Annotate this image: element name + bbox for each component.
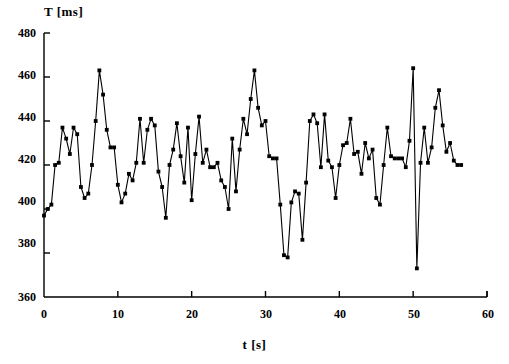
data-point (205, 148, 209, 152)
data-point (341, 143, 345, 147)
y-axis-ticks (44, 77, 50, 253)
data-point (433, 106, 437, 110)
data-point (145, 128, 149, 132)
data-point (404, 165, 408, 169)
x-axis-ticks (118, 291, 487, 297)
data-point (116, 183, 120, 187)
data-point (223, 185, 227, 189)
data-point (430, 146, 434, 150)
data-point (282, 253, 286, 257)
data-point (349, 117, 353, 121)
data-point (164, 216, 168, 220)
data-point (301, 238, 305, 242)
data-point (385, 126, 389, 130)
data-point (304, 181, 308, 185)
data-point (109, 146, 113, 150)
data-point (260, 124, 264, 128)
data-point (127, 172, 131, 176)
data-point (186, 126, 190, 130)
data-point (444, 150, 448, 154)
data-point (75, 132, 79, 136)
data-point (319, 165, 323, 169)
data-point (330, 165, 334, 169)
data-point (271, 157, 275, 161)
data-point (197, 115, 201, 119)
data-point (68, 152, 72, 156)
data-point (230, 137, 234, 141)
data-point (356, 150, 360, 154)
data-point (182, 181, 186, 185)
data-point (422, 126, 426, 130)
data-point (105, 128, 109, 132)
data-point (86, 192, 90, 196)
data-point (415, 267, 419, 271)
data-point (94, 119, 98, 123)
data-point (157, 170, 161, 174)
data-point (238, 148, 242, 152)
data-point (216, 161, 220, 165)
data-point (142, 161, 146, 165)
data-point (153, 124, 157, 128)
data-point (49, 203, 53, 207)
data-point (227, 207, 231, 211)
data-point (400, 157, 404, 161)
data-point (57, 161, 61, 165)
data-point (219, 179, 223, 183)
data-point (275, 157, 279, 161)
data-point (419, 161, 423, 165)
data-point (289, 201, 293, 205)
data-point (308, 119, 312, 123)
data-point (411, 66, 415, 70)
data-point (264, 119, 268, 123)
data-point (293, 190, 297, 194)
data-point (79, 185, 83, 189)
data-point (371, 148, 375, 152)
data-point (378, 203, 382, 207)
data-point (168, 163, 172, 167)
data-point (241, 117, 245, 121)
data-point (337, 163, 341, 167)
data-point (456, 163, 460, 167)
data-point (437, 88, 441, 92)
data-point (441, 124, 445, 128)
data-point (363, 141, 367, 145)
data-point (160, 185, 164, 189)
data-point (278, 203, 282, 207)
data-point (171, 148, 175, 152)
data-point (193, 152, 197, 156)
data-point (315, 121, 319, 125)
data-point (382, 163, 386, 167)
data-point (326, 159, 330, 163)
data-point (367, 157, 371, 161)
data-point (149, 117, 153, 121)
data-point (97, 69, 101, 73)
data-point (312, 113, 316, 117)
data-point (179, 154, 183, 158)
data-point (201, 161, 205, 165)
data-point (448, 141, 452, 145)
data-point (120, 201, 124, 205)
data-point (249, 97, 253, 101)
data-point (408, 139, 412, 143)
data-point (212, 165, 216, 169)
data-point (131, 179, 135, 183)
data-point (393, 157, 397, 161)
data-point (190, 198, 194, 202)
data-point (253, 69, 257, 73)
data-point (175, 121, 179, 125)
data-point (134, 161, 138, 165)
data-point (452, 159, 456, 163)
data-point (138, 117, 142, 121)
data-point (112, 146, 116, 150)
data-point (297, 192, 301, 196)
data-point (72, 126, 76, 130)
data-point (360, 172, 364, 176)
chart-figure: T [ms] t [s] 480 460 440 420 400 380 360… (0, 0, 509, 364)
data-point (459, 163, 463, 167)
data-point (334, 196, 338, 200)
data-point (352, 152, 356, 156)
data-point (101, 93, 105, 97)
data-point (123, 192, 127, 196)
data-point (83, 196, 87, 200)
data-point (286, 256, 290, 260)
